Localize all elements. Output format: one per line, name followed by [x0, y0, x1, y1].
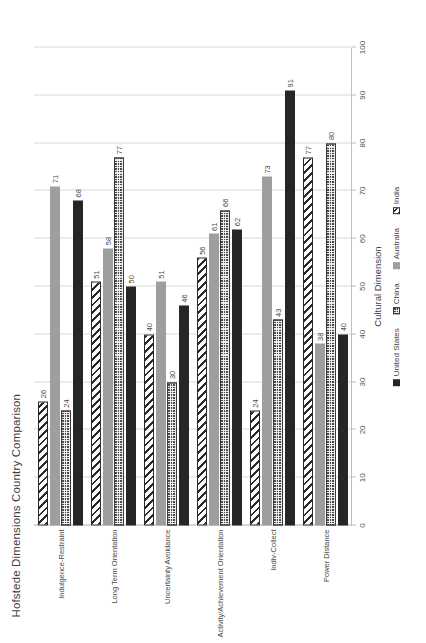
- bar-row: 73: [262, 47, 272, 525]
- bar-au[interactable]: [50, 186, 60, 525]
- legend-item-au[interactable]: Australia: [392, 228, 401, 269]
- bar-value-label: 80: [327, 131, 336, 139]
- bar-value-label: 26: [39, 389, 48, 397]
- legend-swatch-au-icon: [393, 262, 400, 269]
- bar-au[interactable]: [315, 343, 325, 525]
- legend-swatch-us-icon: [393, 379, 400, 386]
- bar-value-label: 38: [315, 332, 324, 340]
- x-tick-label: 100: [358, 40, 367, 53]
- bar-value-label: 43: [274, 308, 283, 316]
- y-axis-title: Cultural Dimension: [372, 246, 383, 326]
- bar-cn[interactable]: [167, 382, 177, 525]
- bar-value-label: 24: [251, 399, 260, 407]
- x-tick-mark: [352, 476, 356, 477]
- bar-row: 50: [126, 47, 136, 525]
- bar-us[interactable]: [285, 90, 295, 525]
- x-tick-label: 20: [358, 425, 367, 434]
- chart-canvas: Hofstede Dimensions Country Comparison 0…: [0, 0, 426, 643]
- legend-item-cn[interactable]: China: [392, 283, 401, 314]
- bar-row: 58: [103, 47, 113, 525]
- bar-value-label: 46: [179, 294, 188, 302]
- bar-row: 51: [91, 47, 101, 525]
- bar-us[interactable]: [73, 200, 83, 525]
- bar-group: 50775851Long Term Orientation: [87, 47, 140, 525]
- bar-us[interactable]: [338, 334, 348, 525]
- bar-in[interactable]: [91, 281, 101, 525]
- bar-row: 66: [220, 47, 230, 525]
- x-tick-mark: [352, 142, 356, 143]
- x-tick-mark: [352, 46, 356, 47]
- category-label: Long Term Orientation: [109, 529, 118, 603]
- bar-value-label: 51: [92, 270, 101, 278]
- x-tick-label: 30: [358, 377, 367, 386]
- x-tick-label: 90: [358, 90, 367, 99]
- bar-value-label: 40: [145, 322, 154, 330]
- chart-title: Hofstede Dimensions Country Comparison: [10, 393, 22, 617]
- bar-row: 56: [197, 47, 207, 525]
- bar-in[interactable]: [303, 157, 313, 525]
- bar-cn[interactable]: [273, 319, 283, 525]
- bar-group: 40803877Power Distance: [299, 47, 352, 525]
- bar-in[interactable]: [250, 410, 260, 525]
- chart-legend: United StatesChinaAustraliaIndia: [392, 186, 401, 385]
- x-tick-mark: [352, 285, 356, 286]
- bar-in[interactable]: [38, 401, 48, 525]
- x-tick-mark: [352, 333, 356, 334]
- x-tick-label: 70: [358, 186, 367, 195]
- bar-row: 71: [50, 47, 60, 525]
- x-tick-mark: [352, 524, 356, 525]
- bar-value-label: 68: [73, 189, 82, 197]
- bar-value-label: 50: [126, 275, 135, 283]
- bar-us[interactable]: [126, 286, 136, 525]
- bar-row: 40: [338, 47, 348, 525]
- bar-value-label: 62: [232, 217, 241, 225]
- bar-in[interactable]: [197, 257, 207, 525]
- x-tick-mark: [352, 94, 356, 95]
- category-label: Indiv-Collect: [268, 529, 277, 570]
- bar-value-label: 56: [198, 246, 207, 254]
- bar-row: 40: [144, 47, 154, 525]
- bar-cn[interactable]: [220, 210, 230, 525]
- bar-row: 68: [73, 47, 83, 525]
- bar-row: 77: [114, 47, 124, 525]
- bar-row: 46: [179, 47, 189, 525]
- x-tick-mark: [352, 237, 356, 238]
- bar-value-label: 77: [304, 146, 313, 154]
- legend-item-in[interactable]: India: [392, 186, 401, 213]
- category-label: Power Distance: [321, 529, 330, 582]
- bar-row: 43: [273, 47, 283, 525]
- bar-in[interactable]: [144, 334, 154, 525]
- plot-area: 010203040506070809010040803877Power Dist…: [34, 47, 352, 525]
- legend-swatch-cn-icon: [393, 307, 400, 314]
- x-tick-mark: [352, 428, 356, 429]
- bar-value-label: 51: [156, 270, 165, 278]
- bar-cn[interactable]: [326, 143, 336, 525]
- legend-swatch-in-icon: [393, 207, 400, 214]
- bar-group: 68247126Indulgence-Restraint: [34, 47, 87, 525]
- bar-value-label: 40: [338, 322, 347, 330]
- bar-us[interactable]: [232, 229, 242, 525]
- x-tick-label: 0: [358, 523, 367, 527]
- bar-au[interactable]: [209, 233, 219, 525]
- x-tick-label: 80: [358, 138, 367, 147]
- bar-value-label: 91: [285, 79, 294, 87]
- bar-us[interactable]: [179, 305, 189, 525]
- category-label: Indulgence-Restraint: [56, 529, 65, 598]
- rotated-chart-container: Hofstede Dimensions Country Comparison 0…: [0, 0, 426, 643]
- bar-au[interactable]: [262, 176, 272, 525]
- bar-au[interactable]: [103, 248, 113, 525]
- legend-label: Australia: [392, 228, 401, 259]
- bar-row: 30: [167, 47, 177, 525]
- bar-cn[interactable]: [61, 410, 71, 525]
- bar-au[interactable]: [156, 281, 166, 525]
- bar-value-label: 30: [168, 370, 177, 378]
- legend-item-us[interactable]: United States: [392, 328, 401, 386]
- bar-cn[interactable]: [114, 157, 124, 525]
- x-tick-label: 40: [358, 329, 367, 338]
- bar-row: 91: [285, 47, 295, 525]
- category-label: Activity/Achievement Orientation: [215, 529, 224, 637]
- bar-row: 62: [232, 47, 242, 525]
- x-tick-label: 50: [358, 282, 367, 291]
- bar-value-label: 24: [62, 399, 71, 407]
- legend-label: China: [392, 283, 401, 304]
